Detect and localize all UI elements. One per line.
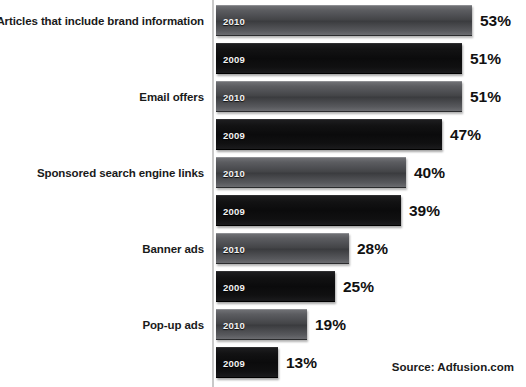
bar-2010[interactable]: 2010: [216, 5, 472, 36]
bar-container: 2009: [216, 119, 442, 150]
bar-container: 2010: [216, 81, 462, 112]
bar-year-label: 2009: [223, 205, 245, 216]
bar-2010[interactable]: 2010: [216, 233, 349, 264]
bar-year-label: 2010: [223, 243, 245, 254]
bar-value-label: 13%: [286, 354, 317, 372]
bar-year-label: 2009: [223, 357, 245, 368]
bar-value-label: 53%: [480, 12, 511, 30]
bar-value-label: 19%: [315, 316, 346, 334]
bar-container: 2010: [216, 233, 349, 264]
chart-row: Banner ads 2010 28%: [0, 230, 526, 268]
bar-container: 2009: [216, 271, 335, 302]
category-label: Banner ads: [142, 243, 204, 255]
chart-row: Pop-up ads 2010 19%: [0, 306, 526, 344]
bar-year-label: 2010: [223, 91, 245, 102]
chart-row: 2009 47%: [0, 116, 526, 154]
bar-year-label: 2009: [223, 129, 245, 140]
chart-row: 2009 39%: [0, 192, 526, 230]
bar-value-label: 25%: [343, 278, 374, 296]
bar-value-label: 39%: [409, 202, 440, 220]
bar-container: 2010: [216, 5, 472, 36]
bar-container: 2010: [216, 309, 307, 340]
bar-value-label: 28%: [357, 240, 388, 258]
bar-2009[interactable]: 2009: [216, 43, 462, 74]
chart-row: Articles that include brand information …: [0, 2, 526, 40]
bar-2010[interactable]: 2010: [216, 309, 307, 340]
bar-2009[interactable]: 2009: [216, 347, 278, 378]
bar-chart: Articles that include brand information …: [0, 0, 526, 387]
bar-2009[interactable]: 2009: [216, 195, 401, 226]
bar-container: 2009: [216, 43, 462, 74]
chart-row: 2009 51%: [0, 40, 526, 78]
bar-2010[interactable]: 2010: [216, 81, 462, 112]
bar-year-label: 2010: [223, 167, 245, 178]
bar-value-label: 51%: [470, 88, 501, 106]
bar-value-label: 47%: [450, 126, 481, 144]
bar-year-label: 2010: [223, 15, 245, 26]
bar-value-label: 40%: [414, 164, 445, 182]
bar-year-label: 2010: [223, 319, 245, 330]
chart-row: 2009 25%: [0, 268, 526, 306]
bar-2009[interactable]: 2009: [216, 271, 335, 302]
chart-row: Sponsored search engine links 2010 40%: [0, 154, 526, 192]
chart-row: Email offers 2010 51%: [0, 78, 526, 116]
bar-2009[interactable]: 2009: [216, 119, 442, 150]
category-label: Articles that include brand information: [0, 15, 204, 27]
bar-year-label: 2009: [223, 53, 245, 64]
category-label: Pop-up ads: [142, 319, 204, 331]
bar-container: 2009: [216, 195, 401, 226]
bar-year-label: 2009: [223, 281, 245, 292]
bar-container: 2009: [216, 347, 278, 378]
bar-container: 2010: [216, 157, 406, 188]
category-label: Sponsored search engine links: [37, 167, 204, 179]
category-label: Email offers: [139, 91, 204, 103]
bar-value-label: 51%: [470, 50, 501, 68]
bar-2010[interactable]: 2010: [216, 157, 406, 188]
source-attribution: Source: Adfusion.com: [392, 361, 514, 373]
